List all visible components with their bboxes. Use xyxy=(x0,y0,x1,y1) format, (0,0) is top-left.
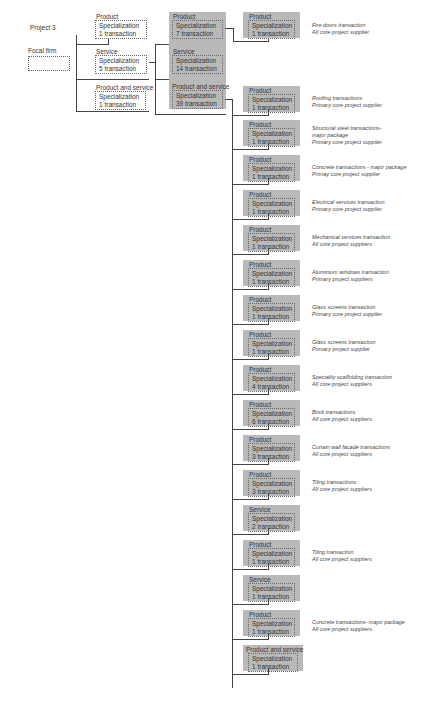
connector xyxy=(233,639,269,640)
connector xyxy=(233,115,269,116)
node-spec-box: Specialization 1 transaction xyxy=(248,268,295,287)
node-count: 1 transaction xyxy=(252,348,291,356)
connector xyxy=(233,184,269,185)
connector xyxy=(268,458,269,465)
node-count: 4 transaction xyxy=(252,383,291,391)
node-count: 1 transaction xyxy=(252,208,291,216)
note-line: Concrete transactions - major package xyxy=(312,164,406,171)
level3-node: Product Specialization 3 transaction xyxy=(243,470,300,496)
connector xyxy=(268,598,269,605)
note-line: All core project suppliers xyxy=(312,556,372,563)
node-spec: Specialization xyxy=(252,270,291,278)
connector xyxy=(233,289,269,290)
level3-node: Product Specialization 3 transaction xyxy=(243,435,300,461)
connector xyxy=(268,353,269,360)
level3-node: Product Specialization 1 transaction xyxy=(243,295,300,321)
node-spec: Specialization xyxy=(252,515,291,523)
node-spec: Specialization xyxy=(252,22,291,30)
node-spec: Specialization xyxy=(99,93,142,101)
connector xyxy=(268,633,269,640)
node-count: 1 transaction xyxy=(252,558,291,566)
node-type: Product xyxy=(249,87,271,94)
level3-node: Product Specialization 1 transaction xyxy=(243,12,300,38)
node-spec: Specialization xyxy=(252,445,291,453)
node-type: Product xyxy=(249,541,271,548)
node-type: Product xyxy=(249,401,271,408)
note-line: All core project suppliers xyxy=(312,416,372,423)
connector xyxy=(233,534,269,535)
connector xyxy=(233,359,269,360)
project-label: Project 3 xyxy=(30,24,56,31)
node-spec: Specialization xyxy=(252,585,291,593)
node-type: Product xyxy=(249,611,271,618)
node-count: 1 transaction xyxy=(252,278,291,286)
node-type: Product xyxy=(249,471,271,478)
connector xyxy=(233,324,269,325)
connector xyxy=(268,178,269,185)
node-spec-box: Specialization 2 transaction xyxy=(248,513,295,532)
node-note: Glass screens transaction Primary core p… xyxy=(312,304,382,318)
level3-node: Product Specialization 6 transaction xyxy=(243,400,300,426)
note-line: All core project suppliers xyxy=(312,381,392,388)
node-type: Product xyxy=(249,226,271,233)
note-line: Glass screens transaction xyxy=(312,339,375,346)
node-spec: Specialization xyxy=(252,340,291,348)
node-spec-box: Specialization 1 transaction xyxy=(95,91,146,110)
note-line: Fire doors transaction xyxy=(312,22,369,29)
note-line: Primary project supplier xyxy=(312,346,375,353)
connector xyxy=(268,283,269,290)
connector xyxy=(233,499,269,500)
note-line: All core project suppliers xyxy=(312,241,390,248)
node-type: Product xyxy=(249,366,271,373)
connector xyxy=(268,248,269,255)
node-note: Tiling transactions All core project sup… xyxy=(312,479,372,493)
node-spec: Specialization xyxy=(252,375,291,383)
connector xyxy=(233,28,234,41)
level1-product-service-node: Product and service Specialization 1 tra… xyxy=(92,83,154,109)
connector xyxy=(233,219,269,220)
connector xyxy=(225,28,233,29)
node-note: Glass screens transaction Primary projec… xyxy=(312,339,375,353)
connector xyxy=(233,464,269,465)
note-line: Brick transactions xyxy=(312,409,372,416)
node-count: 3 transaction xyxy=(252,488,291,496)
level2-service-node: Service Specialization 14 transaction xyxy=(169,47,226,73)
node-spec-box: Specialization 1 transaction xyxy=(248,20,295,39)
level2-product-node: Product Specialization 7 transaction xyxy=(169,12,226,38)
node-count: 1 transaction xyxy=(252,593,291,601)
level3-node: Product Specialization 1 transaction xyxy=(243,155,300,181)
node-spec: Specialization xyxy=(176,57,219,65)
node-type: Product xyxy=(96,13,118,20)
node-count: 1 transaction xyxy=(252,663,294,671)
node-spec-box: Specialization 7 transaction xyxy=(172,20,223,39)
node-spec-box: Specialization 3 transaction xyxy=(248,478,295,497)
connector xyxy=(76,111,149,112)
node-type: Product xyxy=(249,13,271,20)
node-note: Concrete transactions - major package Pr… xyxy=(312,164,406,178)
note-line: Aluminium windows transaction xyxy=(312,269,389,276)
note-line: All core project suppliers xyxy=(312,626,405,633)
node-spec-box: Specialization 39 transaction xyxy=(172,90,223,109)
note-line: Primay core project supplier xyxy=(312,171,406,178)
level3-node: Product Specialization 1 transaction xyxy=(243,86,300,112)
note-line: Structural steel transactions- xyxy=(312,125,382,132)
node-type: Product xyxy=(249,331,271,338)
level3-node: Product and service Specialization 1 tra… xyxy=(243,645,303,671)
note-line: All core project suppliers xyxy=(312,451,390,458)
node-type: Service xyxy=(96,48,118,55)
note-line: Mechanical services transaction xyxy=(312,234,390,241)
node-spec: Specialization xyxy=(252,96,291,104)
node-note: Speciality scaffolding transaction All c… xyxy=(312,374,392,388)
node-spec-box: Specialization 1 transaction xyxy=(248,548,295,567)
node-spec: Specialization xyxy=(99,57,143,65)
connector xyxy=(268,388,269,395)
node-type: Product and service xyxy=(96,84,153,91)
node-spec: Specialization xyxy=(252,550,291,558)
node-spec: Specialization xyxy=(252,305,291,313)
node-count: 39 transaction xyxy=(176,100,219,108)
node-spec-box: Specialization 1 transaction xyxy=(248,338,295,357)
level1-service-node: Service Specialization 5 transaction xyxy=(92,47,150,73)
connector xyxy=(268,318,269,325)
connector xyxy=(268,423,269,430)
connector xyxy=(233,604,269,605)
